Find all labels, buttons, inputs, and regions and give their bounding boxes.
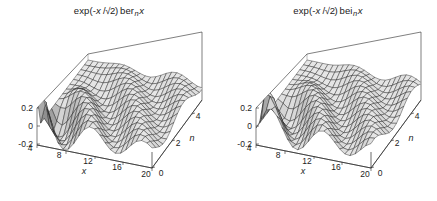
surface-plot-svg-left: 0.2 0 -0.2 4 8 12 16 20 0 2 4 x n [0,0,218,201]
x-tick-label-4: 20 [141,169,151,179]
x-tick-label-4: 20 [360,169,370,179]
surface-plot-panel-left: exp(-x /√2) bernx [0,0,218,201]
n-tick-label-0: 0 [378,168,383,178]
x-axis-ticks-left [37,145,152,171]
x-tick-label-1: 8 [57,150,62,160]
figure-canvas: exp(-x /√2) bernx [0,0,437,201]
z-tick-label-0: 0.2 [240,103,252,113]
x-tick-label-3: 16 [112,162,122,172]
z-tick-label-1: 0 [247,121,252,131]
z-tick-label-1: 0 [28,121,33,131]
n-axis-label: n [408,133,413,143]
n-tick-label-1: 2 [176,138,181,148]
n-tick-label-0: 0 [159,168,164,178]
x-tick-label-2: 12 [83,156,93,166]
x-axis-label: x [81,166,87,176]
x-axis-label: x [300,166,306,176]
n-tick-label-2: 4 [196,111,201,121]
n-tick-label-2: 4 [415,111,420,121]
x-tick-label-0: 4 [28,143,33,153]
n-axis-label: n [189,133,194,143]
n-tick-label-1: 2 [395,138,400,148]
x-tick-label-2: 12 [302,156,312,166]
x-tick-label-3: 16 [331,162,341,172]
z-tick-label-0: 0.2 [21,103,33,113]
x-tick-label-0: 4 [247,143,252,153]
surface-plot-svg-right: 0.2 0 -0.2 4 8 12 16 20 0 2 4 x n [219,0,437,201]
surface-plot-panel-right: exp(-x /√2) beinx [219,0,437,201]
x-tick-label-1: 8 [276,150,281,160]
